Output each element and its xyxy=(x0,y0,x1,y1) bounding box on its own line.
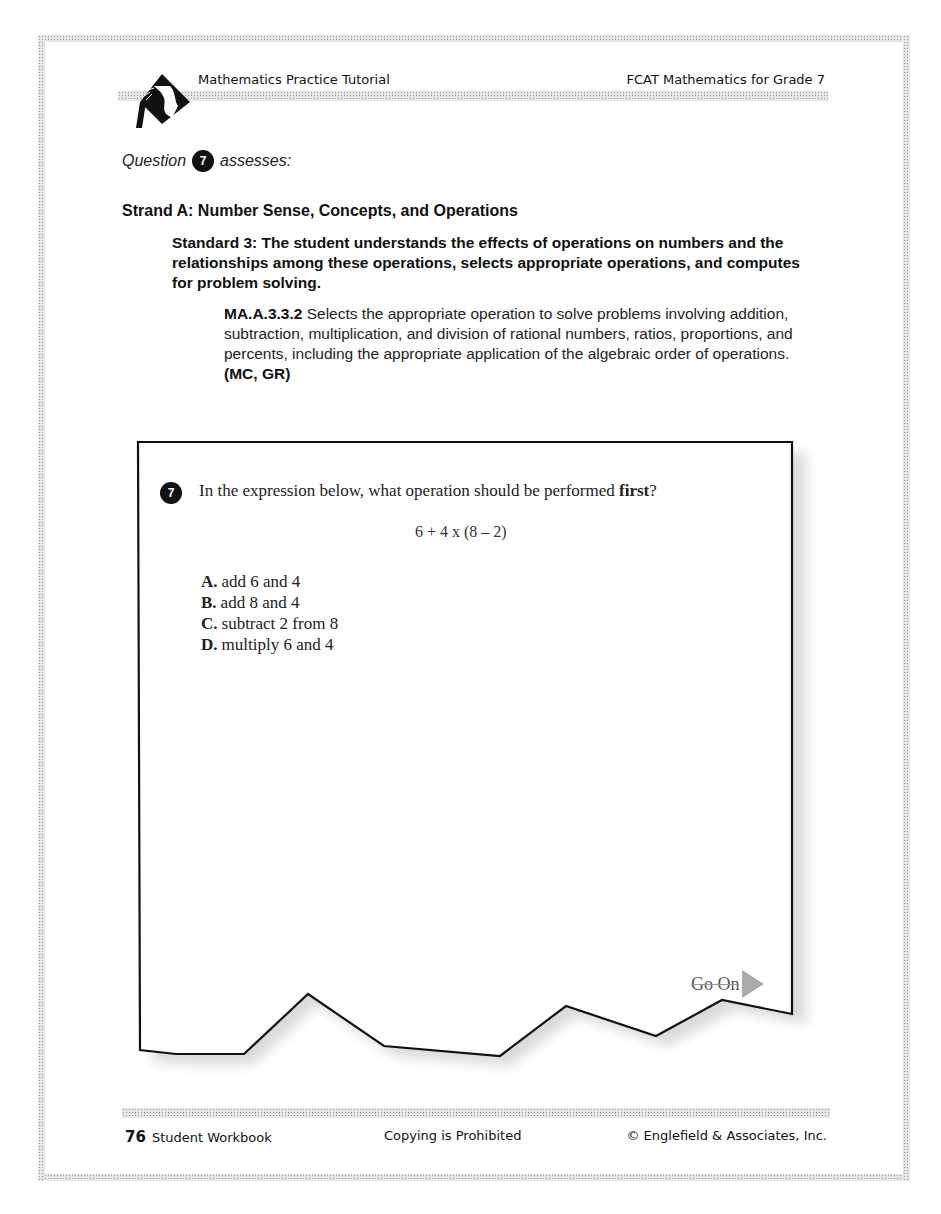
footer-copy-notice: Copying is Prohibited xyxy=(384,1128,521,1143)
option-letter: D. xyxy=(201,635,218,654)
go-on-indicator: Go On xyxy=(691,970,764,998)
answer-option-c[interactable]: C.subtract 2 from 8 xyxy=(201,613,338,634)
option-letter: B. xyxy=(201,593,217,612)
question-card xyxy=(0,0,941,1214)
option-text: add 8 and 4 xyxy=(221,593,300,612)
option-letter: A. xyxy=(201,572,218,591)
option-text: add 6 and 4 xyxy=(222,572,301,591)
answer-option-a[interactable]: A.add 6 and 4 xyxy=(201,571,338,592)
footer-workbook-label: Student Workbook xyxy=(152,1130,272,1145)
option-text: multiply 6 and 4 xyxy=(222,635,334,654)
math-expression: 6 + 4 x (8 – 2) xyxy=(415,523,507,541)
footer-copyright: © Englefield & Associates, Inc. xyxy=(626,1128,827,1143)
prompt-start: In the expression below, what operation … xyxy=(199,481,619,500)
right-arrow-icon xyxy=(742,970,764,998)
answer-option-d[interactable]: D.multiply 6 and 4 xyxy=(201,634,338,655)
answer-options: A.add 6 and 4 B.add 8 and 4 C.subtract 2… xyxy=(201,571,338,655)
go-on-label: Go On xyxy=(691,974,740,995)
prompt-emphasis: first xyxy=(619,481,649,500)
option-text: subtract 2 from 8 xyxy=(222,614,339,633)
footer-rule xyxy=(122,1108,830,1118)
question-number-badge: 7 xyxy=(160,482,182,504)
answer-option-b[interactable]: B.add 8 and 4 xyxy=(201,592,338,613)
question-prompt: In the expression below, what operation … xyxy=(199,481,657,501)
option-letter: C. xyxy=(201,614,218,633)
footer-left: 76Student Workbook xyxy=(125,1128,272,1146)
prompt-end: ? xyxy=(649,481,657,500)
page-number: 76 xyxy=(125,1128,146,1146)
